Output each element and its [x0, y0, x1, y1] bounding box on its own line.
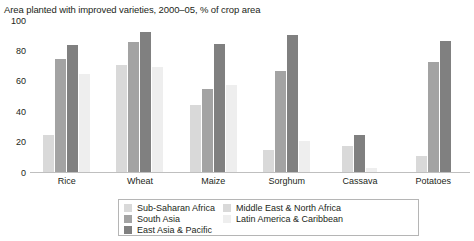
- bar: [128, 42, 139, 173]
- bar-group-cassava: [323, 21, 396, 173]
- legend-swatch-icon: [124, 204, 132, 212]
- x-axis-label-wheat: Wheat: [103, 175, 176, 189]
- bar: [202, 89, 213, 173]
- legend-label: Latin America & Caribbean: [236, 215, 343, 224]
- bar: [152, 67, 163, 173]
- y-axis-tick-0: 0: [21, 169, 26, 178]
- legend-item[interactable]: East Asia & Pacific: [124, 225, 215, 236]
- legend-item[interactable]: South Asia: [124, 214, 215, 225]
- bar: [287, 35, 298, 173]
- y-axis-tick-100: 100: [11, 17, 26, 26]
- y-axis-tick-20: 20: [16, 138, 26, 147]
- legend-item[interactable]: Middle East & North Africa: [223, 203, 343, 214]
- chart-legend: Sub-Saharan AfricaSouth AsiaEast Asia & …: [118, 199, 419, 236]
- bar: [67, 45, 78, 173]
- bar: [226, 85, 237, 173]
- bar-group-potatoes: [397, 21, 470, 173]
- legend-column-right: Middle East & North AfricaLatin America …: [223, 203, 343, 236]
- x-axis-label-cassava: Cassava: [323, 175, 396, 189]
- y-axis-tick-80: 80: [16, 47, 26, 56]
- x-axis-label-sorghum: Sorghum: [250, 175, 323, 189]
- x-axis-baseline: [30, 172, 470, 173]
- bar: [354, 135, 365, 173]
- legend-swatch-icon: [223, 215, 231, 223]
- legend-swatch-icon: [124, 215, 132, 223]
- legend-swatch-icon: [223, 204, 231, 212]
- bar: [275, 71, 286, 173]
- legend-label: East Asia & Pacific: [137, 226, 212, 235]
- y-axis: 100806040200: [0, 21, 30, 173]
- bar-group-wheat: [103, 21, 176, 173]
- bar: [416, 156, 427, 173]
- bar: [55, 59, 66, 173]
- bar-group-rice: [30, 21, 103, 173]
- x-axis-labels: RiceWheatMaizeSorghumCassavaPotatoes: [30, 175, 470, 189]
- bar: [440, 41, 451, 173]
- bar-group-sorghum: [250, 21, 323, 173]
- bar: [299, 141, 310, 173]
- x-axis-label-rice: Rice: [30, 175, 103, 189]
- bar: [79, 74, 90, 173]
- legend-swatch-icon: [124, 226, 132, 234]
- chart-title: Area planted with improved varieties, 20…: [4, 4, 260, 15]
- plot-wrapper: 100806040200: [0, 21, 474, 173]
- bar: [342, 146, 353, 173]
- legend-item[interactable]: Latin America & Caribbean: [223, 214, 343, 225]
- bar: [43, 135, 54, 173]
- legend-column-left: Sub-Saharan AfricaSouth AsiaEast Asia & …: [124, 203, 215, 236]
- legend-label: South Asia: [137, 215, 180, 224]
- x-axis-label-maize: Maize: [177, 175, 250, 189]
- bar: [116, 65, 127, 173]
- legend-label: Middle East & North Africa: [236, 204, 341, 213]
- bar: [263, 150, 274, 173]
- y-axis-tick-60: 60: [16, 77, 26, 86]
- legend-item[interactable]: Sub-Saharan Africa: [124, 203, 215, 214]
- bar: [214, 44, 225, 173]
- x-axis-label-potatoes: Potatoes: [397, 175, 470, 189]
- bar-group-maize: [177, 21, 250, 173]
- bar-groups: [30, 21, 470, 173]
- bar: [140, 32, 151, 173]
- plot-area: [30, 21, 470, 173]
- bar: [428, 62, 439, 173]
- chart-container: Area planted with improved varieties, 20…: [0, 0, 474, 241]
- y-axis-tick-40: 40: [16, 108, 26, 117]
- bar: [190, 105, 201, 173]
- legend-label: Sub-Saharan Africa: [137, 204, 215, 213]
